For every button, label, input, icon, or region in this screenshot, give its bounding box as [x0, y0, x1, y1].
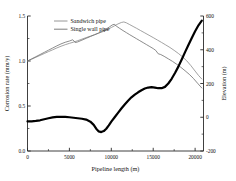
y2-tick-label: 600	[206, 13, 214, 19]
x-tick-label: 5000	[64, 154, 75, 160]
x-tick-label: 15000	[146, 154, 160, 160]
legend-label: Single wall pipe	[71, 26, 110, 32]
y-tick-label: 0.0	[19, 148, 26, 154]
x-tick-label: 0	[26, 154, 29, 160]
y-tick-label: 1.5	[19, 13, 26, 19]
x-axis-label: Pipeline length (m)	[92, 165, 140, 173]
y-tick-label: 0.5	[19, 103, 26, 109]
x-tick-label: 10000	[105, 154, 119, 160]
y2-tick-label: 200	[206, 81, 214, 87]
corrosion-elevation-chart: 05000100001500020000 0.00.51.01.5 -20002…	[0, 0, 236, 181]
y-tick-label: 1.0	[19, 58, 26, 64]
chart-figure: 05000100001500020000 0.00.51.01.5 -20002…	[0, 0, 236, 181]
y2-tick-label: 400	[206, 47, 214, 53]
legend-label: Sandwich pipe	[71, 18, 107, 24]
y2-tick-label: 0	[206, 114, 209, 120]
y-axis-label: Corrosion rate (mm/y)	[3, 56, 11, 112]
x-tick-label: 20000	[188, 154, 202, 160]
y2-tick-label: -200	[206, 148, 216, 154]
y2-axis-label: Elevation (m)	[220, 66, 228, 100]
